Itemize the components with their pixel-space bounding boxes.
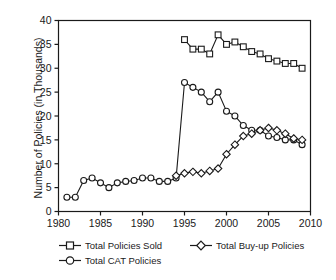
data-point-marker xyxy=(190,46,196,52)
data-point-marker xyxy=(81,177,87,183)
data-point-marker xyxy=(215,32,221,38)
plot-frame xyxy=(59,21,311,212)
x-tick-label: 1980 xyxy=(47,217,71,229)
y-tick-label: 0 xyxy=(46,205,52,217)
data-point-marker xyxy=(265,124,272,131)
data-point-marker xyxy=(249,49,255,55)
data-point-marker xyxy=(240,123,246,129)
data-point-marker xyxy=(182,37,188,43)
x-tick-label: 1990 xyxy=(131,217,155,229)
y-tick-label: 5 xyxy=(46,181,52,193)
data-point-marker xyxy=(156,178,162,184)
legend-entry-total-buy-up-policies[interactable]: Total Buy-up Policies xyxy=(189,239,326,252)
chart-figure: Number of Policies (in Thousands) 051015… xyxy=(0,0,336,280)
data-point-marker xyxy=(266,133,272,139)
square-marker-icon xyxy=(58,239,82,252)
data-point-marker xyxy=(64,194,70,200)
legend-label-total-buy-up-policies: Total Buy-up Policies xyxy=(213,240,304,251)
data-point-marker xyxy=(190,84,196,90)
data-point-marker xyxy=(198,46,204,52)
data-point-marker xyxy=(207,99,213,105)
y-tick-label: 15 xyxy=(40,134,52,146)
data-point-marker xyxy=(273,127,280,134)
diamond-marker-icon xyxy=(189,239,213,252)
data-point-marker xyxy=(215,89,221,95)
legend-row-top: Total Policies Sold Total Buy-up Policie… xyxy=(58,238,326,253)
data-point-marker xyxy=(131,177,137,183)
x-tick-label: 1995 xyxy=(173,217,197,229)
data-point-marker xyxy=(232,113,238,119)
x-tick-label: 2005 xyxy=(257,217,281,229)
data-point-marker xyxy=(72,194,78,200)
y-tick-label: 40 xyxy=(40,14,52,26)
legend-label-total-policies-sold: Total Policies Sold xyxy=(82,240,162,251)
circle-marker-icon xyxy=(58,254,82,267)
y-tick-label: 25 xyxy=(40,86,52,98)
data-point-marker xyxy=(106,185,112,191)
legend-label-total-cat-policies: Total CAT Policies xyxy=(82,255,161,266)
series-diamond xyxy=(172,124,305,179)
data-point-marker xyxy=(224,41,230,47)
data-point-marker xyxy=(224,108,230,114)
data-point-marker xyxy=(207,51,213,57)
data-point-marker xyxy=(214,165,221,172)
legend-row-bottom: Total CAT Policies xyxy=(58,253,326,268)
data-point-marker xyxy=(114,180,120,186)
y-tick-label: 35 xyxy=(40,38,52,50)
data-point-marker xyxy=(257,51,263,57)
data-point-marker xyxy=(189,168,196,175)
y-tick-label: 20 xyxy=(40,110,52,122)
data-point-marker xyxy=(181,170,188,177)
legend-entry-total-cat-policies[interactable]: Total CAT Policies xyxy=(58,254,189,267)
data-point-marker xyxy=(291,61,297,67)
data-point-marker xyxy=(198,170,205,177)
data-point-marker xyxy=(165,178,171,184)
data-point-marker xyxy=(240,44,246,50)
data-point-marker xyxy=(266,56,272,62)
data-point-marker xyxy=(140,175,146,181)
series-square xyxy=(182,32,305,71)
data-point-marker xyxy=(182,80,188,86)
data-point-marker xyxy=(232,39,238,45)
data-point-marker xyxy=(282,130,289,137)
y-tick-label: 10 xyxy=(40,158,52,170)
legend-entry-total-policies-sold[interactable]: Total Policies Sold xyxy=(58,239,189,252)
chart-legend: Total Policies Sold Total Buy-up Policie… xyxy=(58,238,326,268)
x-tick-label: 2010 xyxy=(299,217,323,229)
data-point-marker xyxy=(282,61,288,67)
data-point-marker xyxy=(256,127,263,134)
data-point-marker xyxy=(148,175,154,181)
data-point-marker xyxy=(98,180,104,186)
x-tick-label: 1985 xyxy=(89,217,113,229)
x-tick-label: 2000 xyxy=(215,217,239,229)
data-point-marker xyxy=(299,65,305,71)
data-point-marker xyxy=(89,175,95,181)
data-point-marker xyxy=(206,167,213,174)
data-point-marker xyxy=(274,58,280,64)
series-circle xyxy=(64,80,305,201)
data-point-marker xyxy=(198,89,204,95)
y-tick-label: 30 xyxy=(40,62,52,74)
data-point-marker xyxy=(123,178,129,184)
data-point-marker xyxy=(274,134,280,140)
series-layer xyxy=(64,32,306,200)
